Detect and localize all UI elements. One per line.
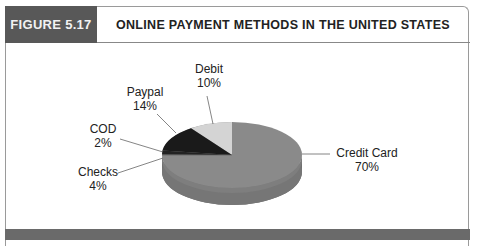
label-checks: Checks [78,165,118,179]
label-cod-pct: 2% [94,136,112,150]
label-debit: Debit [195,62,224,76]
label-credit-card-pct: 70% [355,160,379,174]
label-paypal-pct: 14% [133,99,157,113]
label-credit-card: Credit Card [336,146,397,160]
bottom-bar [5,229,470,240]
pie-chart: Credit Card 70% Debit 10% Paypal 14% COD… [0,0,477,250]
label-checks-pct: 4% [89,179,107,193]
label-debit-pct: 10% [197,76,221,90]
label-paypal: Paypal [127,85,164,99]
label-cod: COD [90,122,117,136]
